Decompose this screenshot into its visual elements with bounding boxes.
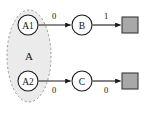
edge-b-terminal1[interactable]: 1 <box>93 11 121 25</box>
terminal-node-2-shape <box>122 73 138 89</box>
edge-c-terminal2[interactable]: 0 <box>93 81 121 95</box>
node-a2-label: A2 <box>22 77 34 87</box>
node-a2[interactable]: A2 <box>18 71 38 91</box>
state-transition-diagram: A 0 1 0 0 A1 A2 <box>0 0 151 116</box>
terminal-node-1[interactable] <box>122 17 138 33</box>
edge-a2-c-label: 0 <box>52 85 56 95</box>
node-b-label: B <box>79 21 85 31</box>
node-a1[interactable]: A1 <box>18 15 38 35</box>
edge-b-terminal1-label: 1 <box>104 11 108 21</box>
diagram-canvas: A 0 1 0 0 A1 A2 <box>0 0 151 116</box>
edge-c-terminal2-label: 0 <box>104 85 108 95</box>
node-a1-label: A1 <box>22 21 34 31</box>
edge-a1-b-label: 0 <box>52 11 56 21</box>
terminal-node-1-shape <box>122 17 138 33</box>
group-a-label: A <box>25 50 33 62</box>
node-b[interactable]: B <box>72 15 92 35</box>
node-c[interactable]: C <box>72 71 92 91</box>
terminal-node-2[interactable] <box>122 73 138 89</box>
node-c-label: C <box>79 77 85 87</box>
